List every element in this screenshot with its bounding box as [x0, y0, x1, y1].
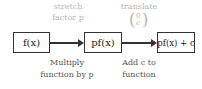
- edge1-top-label-line1: stretch: [50, 2, 86, 12]
- edge2-bottom-label-line1: Add c to: [116, 58, 162, 68]
- node-pfc: pf(x) + c: [157, 32, 195, 53]
- node-pf: pf(x): [84, 32, 122, 53]
- arrow-f-to-pf: [50, 42, 79, 44]
- arrow-pf-to-pfc: [122, 42, 152, 44]
- edge1-bottom-label-line1: Multiply: [44, 58, 90, 68]
- edge1-bottom-label-line2: function by p: [36, 70, 98, 80]
- edge1-top-label-line2: factor p: [46, 13, 90, 23]
- edge2-bottom-label-line2: function: [116, 70, 162, 80]
- node-f: f(x): [13, 32, 50, 53]
- vector-bottom: c: [136, 20, 140, 27]
- edge2-top-label-line1: translate: [118, 2, 160, 12]
